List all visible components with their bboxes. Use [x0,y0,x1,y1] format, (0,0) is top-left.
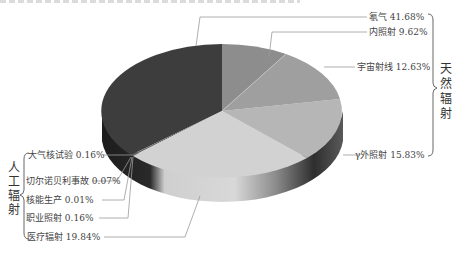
label-cosmic: 宇宙射线 12.63% [357,61,431,72]
label-occupational: 职业照射 0.16% [26,212,94,223]
label-gamma: γ外照射 15.83% [355,149,425,160]
label-chernobyl: 切尔诺贝利事故 0.07% [26,175,121,186]
label-nuclear: 核能生产 0.01% [26,194,94,205]
group-natural-char-2: 辐 [440,91,452,106]
label-medical: 医疗辐射 19.84% [27,231,101,242]
label-internal: 内照射 9.62% [369,26,428,37]
group-natural-char-3: 射 [440,106,452,121]
label-radon: 氡气 41.68% [369,11,425,22]
label-atmos: 大气核试验 0.16% [28,149,105,160]
group-natural-char-0: 天 [440,62,452,76]
pie-chart: 氡气 41.68% 内照射 9.62% 宇宙射线 12.63% γ外照射 15.… [0,0,461,254]
leader-medical [104,196,200,237]
group-artificial-char-0: 人 [8,161,20,175]
group-natural-char-1: 然 [440,76,452,91]
leader-radon [196,17,367,46]
group-artificial-char-1: 工 [8,175,20,189]
brace-natural [428,14,437,156]
group-artificial-char-2: 辐 [8,188,20,203]
group-artificial-char-3: 射 [8,202,20,217]
